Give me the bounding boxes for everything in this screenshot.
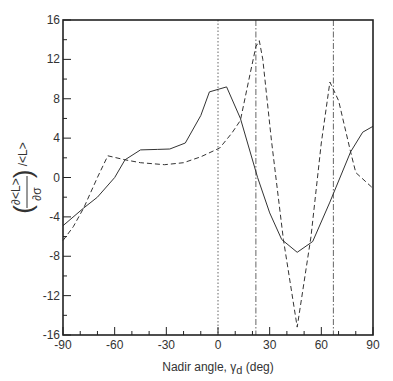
y-axis-paren-close: ) [8, 170, 38, 179]
y-tick-label: 12 [47, 52, 61, 66]
y-axis-denominator-norm: /<L> [16, 142, 30, 169]
x-axis-ticks: -90-60-300306090 [54, 327, 380, 352]
y-axis-title: (∂<L>) /<L> ∂σ [8, 142, 44, 213]
y-tick-label: 8 [53, 92, 60, 106]
y-tick-label: 0 [53, 171, 60, 185]
y-tick-label: -4 [49, 210, 60, 224]
y-axis-ticks: 1612840-4-8-12-16 [43, 13, 71, 342]
x-tick-label: 90 [366, 338, 380, 352]
x-tick-label: 30 [263, 338, 277, 352]
x-tick-label: 60 [315, 338, 329, 352]
x-tick-label: -30 [158, 338, 176, 352]
x-axis-title: Nadir angle, γd (deg) [162, 360, 274, 376]
x-tick-label: 0 [215, 338, 222, 352]
svg-text:(∂<L>) /<L>: (∂<L>) /<L> [8, 142, 38, 213]
y-axis-denominator: ∂σ [30, 187, 44, 201]
x-axis-title-main: Nadir angle, γ [162, 360, 236, 374]
y-axis-paren-open: ( [8, 205, 38, 214]
x-tick-label: -60 [106, 338, 124, 352]
y-axis-numerator: ∂<L> [9, 178, 23, 205]
x-axis-title-unit: (deg) [242, 360, 273, 374]
line-chart: 1612840-4-8-12-16 -90-60-300306090 Nadir… [0, 0, 393, 381]
y-tick-label: 16 [47, 13, 61, 27]
y-tick-label: -12 [43, 289, 61, 303]
y-tick-label: 4 [53, 131, 60, 145]
x-tick-label: -90 [54, 338, 72, 352]
y-tick-label: -8 [49, 249, 60, 263]
